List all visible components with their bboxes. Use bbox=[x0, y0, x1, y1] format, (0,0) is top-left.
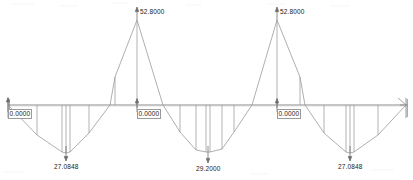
moment-curve-support-2 bbox=[110, 20, 163, 105]
moment-curve-span-4 bbox=[305, 105, 406, 153]
ordinate-stems-span-4 bbox=[324, 105, 406, 153]
peak-right-value-label: 52.8000 bbox=[280, 8, 305, 16]
sag-leader-arrows bbox=[64, 146, 351, 163]
ordinate-stems-support-2 bbox=[115, 20, 137, 105]
support-left-value-label: 0.0000 bbox=[8, 109, 32, 119]
beam-baseline-axis bbox=[8, 105, 408, 106]
ordinate-stems-support-4 bbox=[277, 20, 300, 105]
bending-moment-diagram: 0.0000 0.0000 0.0000 52.8000 52.8000 27.… bbox=[0, 0, 413, 180]
right-end-hook bbox=[398, 98, 406, 105]
sag-right-value-label: 27.0848 bbox=[338, 163, 363, 171]
moment-curve-span-2-3 bbox=[163, 105, 252, 152]
ordinate-stems-span-2-3 bbox=[180, 105, 234, 152]
bmd-plot-canvas bbox=[0, 0, 413, 180]
support-ticks bbox=[8, 98, 407, 118]
moment-curve-support-4 bbox=[252, 20, 305, 105]
support-mid-value-label: 0.0000 bbox=[137, 109, 161, 119]
sag-mid-value-label: 29.2000 bbox=[196, 165, 221, 173]
scan-artifacts bbox=[4, 3, 394, 174]
sag-left-value-label: 27.0848 bbox=[54, 163, 79, 171]
support-right-value-label: 0.0000 bbox=[277, 109, 301, 119]
peak-left-value-label: 52.8000 bbox=[140, 8, 165, 16]
